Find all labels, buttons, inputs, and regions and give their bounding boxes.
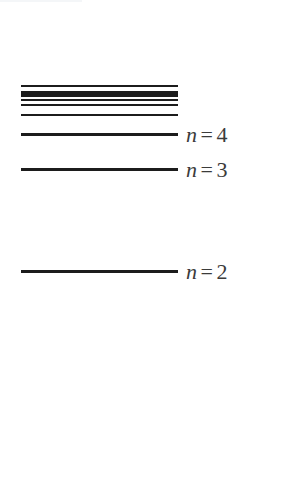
energy-level-label-n4: n=4 (186, 124, 228, 146)
energy-level-line-4 (21, 133, 178, 136)
energy-level-diagram: n=4n=3n=2 (0, 0, 285, 484)
quantum-number-value: 3 (216, 157, 228, 182)
energy-level-line-2 (21, 270, 178, 273)
equals-sign: = (198, 122, 217, 147)
quantum-number-symbol: n (186, 157, 198, 182)
energy-level-line-unlabelled-1 (21, 85, 178, 87)
equals-sign: = (198, 157, 217, 182)
energy-level-line-3 (21, 168, 178, 171)
energy-level-label-n3: n=3 (186, 159, 228, 181)
energy-level-line-unlabelled-3 (21, 99, 178, 101)
quantum-number-value: 2 (216, 259, 228, 284)
equals-sign: = (198, 259, 217, 284)
energy-level-line-unlabelled-4 (21, 104, 178, 106)
quantum-number-symbol: n (186, 259, 198, 284)
energy-level-line-unlabelled-2 (21, 91, 178, 97)
quantum-number-value: 4 (216, 122, 228, 147)
quantum-number-symbol: n (186, 122, 198, 147)
energy-level-label-n2: n=2 (186, 261, 228, 283)
energy-level-line-unlabelled-5 (21, 114, 178, 116)
scan-artifact-stripe (0, 0, 82, 2)
